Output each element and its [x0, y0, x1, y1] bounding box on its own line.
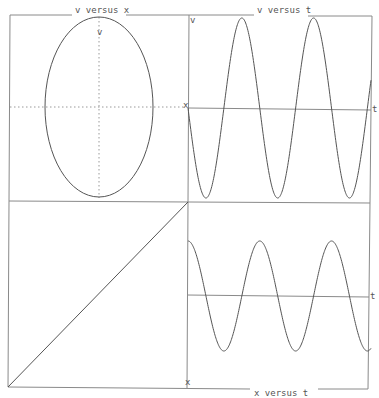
panel-v-versus-x: v versus x v	[10, 5, 186, 198]
panel-title: v versus x	[75, 5, 130, 15]
v-axis-label: v	[97, 27, 102, 37]
panel-x-versus-t: t x x versus t	[185, 241, 375, 398]
panel-title: x versus t	[254, 388, 308, 398]
t-axis-label: t	[370, 291, 375, 301]
t-axis	[189, 108, 371, 110]
panel-x-versus-x	[8, 202, 188, 387]
phase-plot-figure: v versus x v v versus t v x t t x x vers…	[0, 0, 379, 398]
v-axis-label: v	[190, 15, 195, 25]
diagonal-line	[8, 202, 188, 387]
t-axis-label: t	[372, 104, 377, 114]
panel-v-versus-t: v versus t v x t	[183, 5, 377, 198]
frame	[8, 15, 372, 389]
x-axis-label: x	[185, 377, 191, 387]
panel-title: v versus t	[257, 5, 311, 15]
